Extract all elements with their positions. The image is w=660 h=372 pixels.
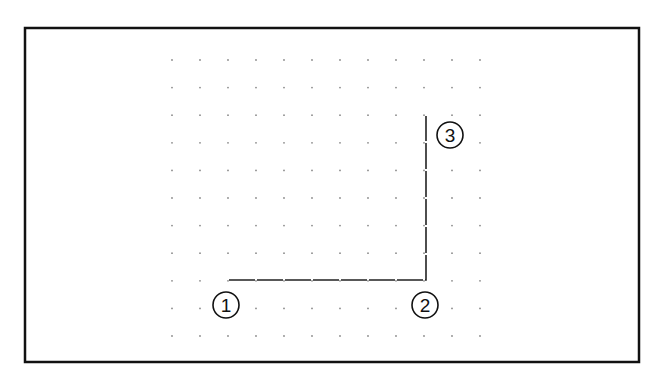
grid-dot	[199, 114, 201, 116]
grid-dot	[367, 170, 369, 172]
marker-label: 2	[420, 295, 431, 316]
grid-dot	[171, 280, 173, 282]
grid-dot	[423, 142, 425, 144]
grid-dot	[311, 114, 313, 116]
grid-dot	[227, 280, 229, 282]
grid-dot	[451, 280, 453, 282]
grid-dot	[283, 280, 285, 282]
grid-dot	[367, 252, 369, 254]
grid-dot	[479, 142, 481, 144]
diagram-frame	[25, 28, 639, 362]
grid-dot	[423, 225, 425, 227]
grid-dot	[451, 59, 453, 61]
grid-dot	[255, 59, 257, 61]
grid-dot	[311, 308, 313, 310]
point-marker-1: 1	[213, 292, 239, 318]
grid-dot	[227, 197, 229, 199]
grid-dot	[199, 280, 201, 282]
grid-dot	[255, 308, 257, 310]
grid-dot	[171, 308, 173, 310]
grid-dot	[255, 142, 257, 144]
grid-dot	[255, 114, 257, 116]
grid-dot	[423, 197, 425, 199]
grid-dot	[451, 252, 453, 254]
grid-dot	[451, 308, 453, 310]
grid-dot	[451, 225, 453, 227]
grid-dot	[423, 335, 425, 337]
grid-dot	[395, 308, 397, 310]
point-marker-2: 2	[412, 292, 438, 318]
grid-dot	[423, 87, 425, 89]
grid-dot	[395, 142, 397, 144]
grid-dot	[311, 142, 313, 144]
grid-dot	[171, 142, 173, 144]
grid-dot	[367, 335, 369, 337]
grid-dot	[311, 87, 313, 89]
grid-dot	[255, 280, 257, 282]
grid-dot	[423, 170, 425, 172]
grid-dot	[367, 87, 369, 89]
grid-dot	[311, 197, 313, 199]
grid-dot	[311, 170, 313, 172]
grid-dot	[283, 335, 285, 337]
grid-dot	[199, 335, 201, 337]
grid-dot	[199, 87, 201, 89]
grid-dot	[479, 197, 481, 199]
grid-dot	[171, 87, 173, 89]
grid-dot	[283, 87, 285, 89]
grid-dot	[367, 142, 369, 144]
grid-dot	[227, 335, 229, 337]
grid-dot	[339, 87, 341, 89]
point-marker-3: 3	[437, 122, 463, 148]
grid-dot	[311, 280, 313, 282]
grid-dot	[479, 280, 481, 282]
grid-dot	[395, 197, 397, 199]
grid-dot	[255, 87, 257, 89]
marker-label: 1	[221, 295, 232, 316]
grid-dot	[283, 308, 285, 310]
grid-dot	[423, 59, 425, 61]
grid-dot	[395, 280, 397, 282]
grid-dot	[479, 59, 481, 61]
grid-dot	[283, 197, 285, 199]
grid-dot	[339, 142, 341, 144]
grid-dot	[283, 225, 285, 227]
grid-dot	[171, 335, 173, 337]
grid-dot	[311, 252, 313, 254]
grid-dot	[367, 197, 369, 199]
grid-dot	[395, 87, 397, 89]
grid-dot	[227, 142, 229, 144]
grid-dot	[479, 308, 481, 310]
grid-dot	[311, 59, 313, 61]
grid-dot	[339, 170, 341, 172]
grid-dot	[199, 170, 201, 172]
grid-dot	[171, 252, 173, 254]
grid-dot	[283, 142, 285, 144]
grid-dot	[227, 170, 229, 172]
grid-dot	[227, 252, 229, 254]
grid-dot	[367, 59, 369, 61]
grid-dot	[171, 197, 173, 199]
grid-dot	[311, 335, 313, 337]
grid-dot	[339, 59, 341, 61]
grid-dot	[171, 59, 173, 61]
grid-dot	[255, 225, 257, 227]
grid-dot	[339, 114, 341, 116]
grid-dot	[479, 87, 481, 89]
marker-label: 3	[445, 125, 456, 146]
grid-dot	[283, 170, 285, 172]
grid-dot	[227, 59, 229, 61]
grid-dot	[367, 308, 369, 310]
grid-dot	[171, 170, 173, 172]
grid-dot	[339, 225, 341, 227]
grid-dot	[395, 225, 397, 227]
grid-dot	[199, 225, 201, 227]
grid-dot	[423, 252, 425, 254]
grid-dot	[367, 280, 369, 282]
grid-dot	[199, 142, 201, 144]
grid-dot	[283, 114, 285, 116]
grid-dot	[255, 170, 257, 172]
grid-dot	[479, 114, 481, 116]
grid-dot	[367, 114, 369, 116]
grid-dot	[255, 335, 257, 337]
